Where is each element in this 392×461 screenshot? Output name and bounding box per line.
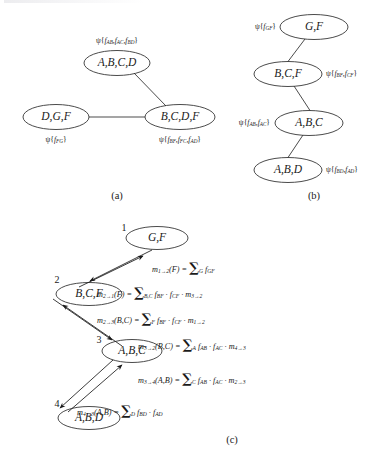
brace-close: } — [272, 22, 276, 31]
factor-sub: AC — [215, 379, 222, 385]
factor-sub: 4→3 — [235, 345, 246, 351]
factor-sub: AB — [200, 345, 207, 351]
msg-eq: = — [182, 265, 188, 274]
msg-eq: = — [114, 408, 120, 417]
sigma-icon: ∑ — [121, 403, 131, 418]
node-label-dgf: D,G,F — [41, 111, 70, 123]
brace-close: } — [63, 135, 67, 144]
msg-eq: = — [134, 316, 140, 325]
factor-sub: BF — [170, 138, 176, 144]
factor-sub: AB — [249, 121, 255, 127]
factor-sub: 3→2 — [191, 293, 202, 299]
node-label-b-abd: A,B,D — [274, 164, 302, 176]
msg-args: (B,C) — [114, 316, 132, 325]
factor-sub: BD — [337, 168, 344, 174]
factor-sub: AD — [155, 411, 162, 417]
factor-sub: CF — [172, 293, 179, 299]
node-number-4: 4 — [55, 399, 60, 409]
sum-subscript: D — [131, 411, 135, 417]
edge-b-gf-bcf — [288, 39, 305, 62]
factor-sub: AB — [200, 379, 207, 385]
node-label-b-abc: A,B,C — [295, 117, 322, 129]
msg-route: 2→3 — [103, 319, 114, 325]
sum-subscript: C — [192, 379, 196, 385]
arrow-m12 — [79, 256, 143, 287]
sum-subscript: F — [151, 319, 154, 325]
brace-close: } — [354, 165, 358, 174]
factor-sub: 1→2 — [194, 319, 205, 325]
node-number-3: 3 — [97, 335, 102, 345]
node-number-2: 2 — [55, 275, 60, 285]
msg-route: 1→2 — [158, 268, 169, 274]
factor-sub: BF — [157, 293, 164, 299]
potential-label-abcd: ψ{fAB,fAC,fBD} — [96, 37, 138, 45]
msg-route: 3→4 — [144, 379, 155, 385]
message-equation-m12: m1→2(F) = ∑G fGF — [152, 261, 215, 275]
brace-close: } — [353, 69, 357, 78]
potential-label-b-abd: ψ{fBD,fAD} — [326, 166, 358, 174]
msg-args: (F) — [114, 290, 124, 299]
factor-sub: FC — [180, 138, 187, 144]
message-equation-m21: m2→1(F) = ∑B,C fBF · fCF · m3→2 — [97, 286, 202, 300]
panel-caption-b: (b) — [308, 191, 320, 202]
node-number-1: 1 — [122, 223, 127, 233]
brace-close: } — [266, 118, 270, 127]
sum-subscript: A — [192, 345, 195, 351]
potential-label-b-gf: ψ{fGF} — [255, 23, 276, 31]
factor-sub: 2→3 — [234, 379, 245, 385]
node-label-abcd: A,B,C,D — [98, 57, 137, 69]
message-equation-m23: m2→3(B,C) = ∑F fBF · fCF · m1→2 — [97, 312, 205, 326]
msg-args: (B,C) — [155, 342, 173, 351]
factor-sub: GF — [207, 268, 214, 274]
sigma-icon: ∑ — [189, 260, 199, 275]
sigma-icon: ∑ — [142, 311, 152, 326]
potential-label-b-abc: ψ{fAB,fAC} — [239, 119, 270, 127]
panel-caption-c: (c) — [226, 435, 238, 446]
msg-eq: = — [175, 376, 181, 385]
edge-b-abc-abd — [288, 135, 303, 158]
edge-b-bcf-abc — [294, 86, 310, 111]
sum-subscript: G — [199, 268, 203, 274]
arrow-m21 — [90, 250, 152, 281]
brace-close: } — [197, 135, 201, 144]
factor-sub: AB — [107, 39, 113, 45]
message-equation-m34: m3→4(A,B) = ∑C fAB · fAC · m2→3 — [138, 372, 246, 386]
figure-root: A,B,C,D D,G,F B,C,D,F ψ{fAB,fAC,fBD} ψ{f… — [0, 0, 392, 461]
arrow-m34 — [60, 360, 113, 408]
potential-label-b-bcf: ψ{fBF,fCF} — [326, 70, 357, 78]
msg-args: (A,B) — [94, 408, 112, 417]
msg-route: 2→1 — [103, 293, 114, 299]
sigma-icon: ∑ — [183, 337, 193, 352]
factor-sub: BF — [337, 72, 343, 78]
brace-close: } — [134, 36, 138, 45]
sigma-icon: ∑ — [134, 285, 144, 300]
panel-caption-a: (a) — [111, 191, 123, 202]
msg-args: (F) — [169, 265, 179, 274]
msg-route: 3→2 — [144, 345, 155, 351]
msg-eq: = — [127, 290, 133, 299]
node-label-bcdf: B,C,D,F — [161, 111, 200, 123]
message-equation-m32: m3→2(B,C) = ∑A fAB · fAC · m4→3 — [138, 338, 246, 352]
msg-eq: = — [175, 342, 181, 351]
potential-label-dgf: ψ{fFG} — [45, 136, 66, 144]
msg-args: (A,B) — [155, 376, 173, 385]
sum-subscript: B,C — [144, 293, 153, 299]
factor-sub: BD — [139, 411, 146, 417]
node-label-c-gf: G,F — [148, 232, 166, 244]
message-equation-m43: m4→3(A,B) = ∑D fBD · fAD — [77, 404, 163, 418]
factor-sub: BF — [159, 319, 166, 325]
factor-sub: AC — [117, 39, 124, 45]
factor-sub: AC — [215, 345, 222, 351]
factor-sub: CF — [174, 319, 181, 325]
node-label-b-bcf: B,C,F — [274, 68, 301, 80]
sigma-icon: ∑ — [182, 371, 192, 386]
node-label-b-gf: G,F — [305, 21, 323, 33]
edge-abcd-bcdf — [134, 73, 166, 106]
potential-label-bcdf: ψ{fBF,fFC,fAD} — [159, 136, 201, 144]
msg-route: 4→3 — [83, 411, 94, 417]
